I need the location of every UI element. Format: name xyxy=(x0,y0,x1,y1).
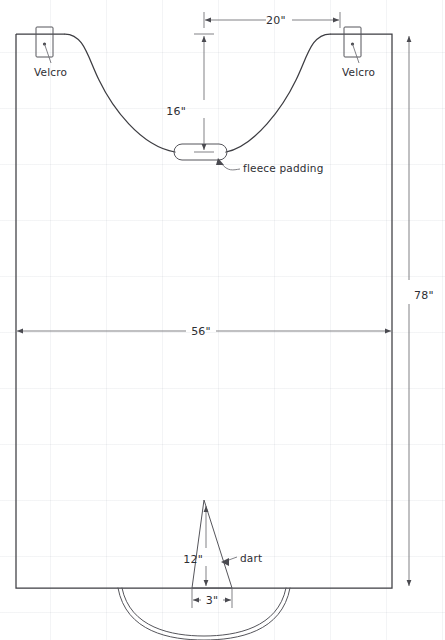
dimension-label-12in: 12" xyxy=(183,553,203,566)
dimension-neck-opening-width: 20" xyxy=(204,12,340,28)
dimension-dart-base-width: 3" xyxy=(192,589,232,608)
neckline-curve-right xyxy=(226,34,330,152)
hem-arc-group xyxy=(118,588,290,640)
velcro-patch-right[interactable] xyxy=(344,27,361,57)
dimension-overall-width: 56" xyxy=(17,325,391,338)
pattern-body-outline xyxy=(16,34,392,588)
velcro-right-label: Velcro xyxy=(342,66,375,78)
pattern-sheet: Velcro Velcro fleece padding 20" xyxy=(0,0,445,640)
velcro-right-leader xyxy=(353,44,360,63)
velcro-patch-left[interactable] xyxy=(36,27,53,57)
neckline-curve-left xyxy=(65,34,175,152)
dimension-label-16in: 16" xyxy=(166,105,186,118)
dimension-label-56in: 56" xyxy=(191,325,211,338)
hem-arc-outer xyxy=(118,588,290,640)
fleece-padding-leader xyxy=(221,163,240,170)
dimension-dart-height: 12" xyxy=(183,506,206,586)
fleece-padding-label: fleece padding xyxy=(243,162,324,174)
dart-shape[interactable] xyxy=(192,500,232,588)
dimension-label-20in: 20" xyxy=(266,14,286,27)
dimension-overall-height: 78" xyxy=(409,36,434,586)
dimension-neck-drop-depth: 16" xyxy=(166,34,214,152)
dimension-label-78in: 78" xyxy=(414,289,434,302)
velcro-left-label: Velcro xyxy=(34,66,67,78)
velcro-left-leader xyxy=(45,44,52,63)
dart-label: dart xyxy=(240,552,262,564)
pattern-drawing: Velcro Velcro fleece padding 20" xyxy=(0,0,445,640)
dimension-label-3in: 3" xyxy=(206,594,218,607)
